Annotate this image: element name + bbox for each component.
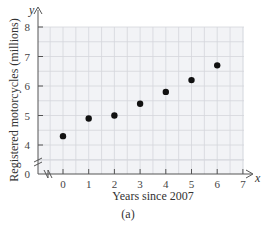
x-axis-variable: x bbox=[254, 171, 261, 185]
y-tick-label: 4 bbox=[25, 139, 31, 151]
x-axis-label: Years since 2007 bbox=[112, 189, 193, 203]
data-point bbox=[111, 112, 117, 118]
y-axis-variable: y bbox=[28, 3, 35, 17]
x-tick-label: 1 bbox=[86, 178, 92, 190]
y-tick-label: 0 bbox=[25, 168, 31, 180]
data-point bbox=[137, 101, 143, 107]
data-point bbox=[60, 133, 66, 139]
x-tick-label: 6 bbox=[214, 178, 220, 190]
data-point bbox=[214, 62, 220, 68]
x-tick-label: 0 bbox=[60, 178, 66, 190]
y-tick-label: 7 bbox=[25, 51, 31, 63]
data-point bbox=[188, 77, 194, 83]
scatter-chart: 04567801234567 y x Years since 2007 Regi… bbox=[0, 0, 272, 232]
y-tick-label: 5 bbox=[25, 110, 31, 122]
x-tick-label: 7 bbox=[240, 178, 246, 190]
figure-caption: (a) bbox=[121, 207, 134, 221]
y-tick-label: 6 bbox=[25, 80, 31, 92]
data-point bbox=[86, 115, 92, 121]
y-tick-label: 8 bbox=[25, 21, 31, 33]
data-point bbox=[163, 89, 169, 95]
y-axis-label: Registered motorcycles (millions) bbox=[7, 18, 21, 181]
